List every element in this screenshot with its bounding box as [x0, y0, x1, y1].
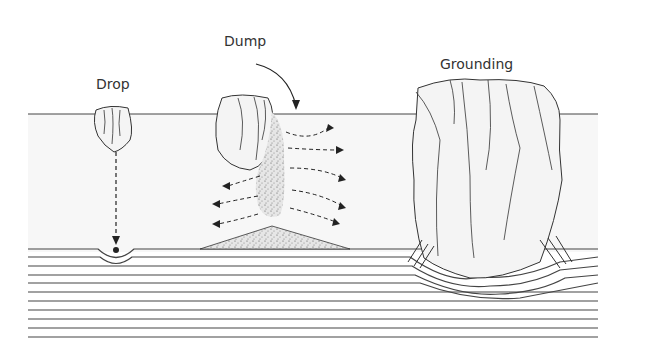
diagram-canvas — [0, 0, 660, 354]
iceberg-sedimentation-diagram: Drop Dump Grounding — [0, 0, 660, 354]
dump-label: Dump — [224, 33, 266, 49]
grounding-label: Grounding — [440, 56, 513, 72]
drop-label: Drop — [96, 76, 130, 92]
